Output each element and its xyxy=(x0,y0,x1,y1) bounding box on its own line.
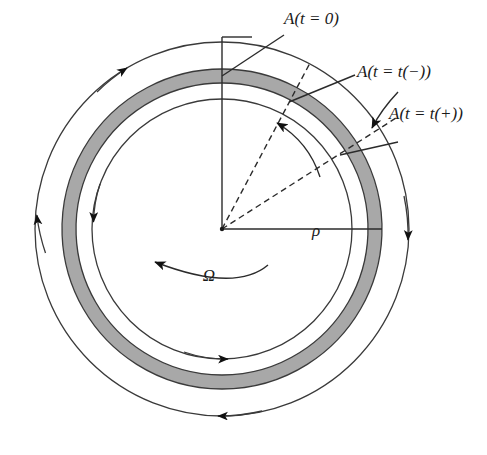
a-t0-leader-line xyxy=(222,35,284,76)
label-rho: ρ xyxy=(311,221,320,240)
annulus-rotation-diagram: A(t = 0) A(t = t(−)) A(t = t(+)) ρ Ω xyxy=(0,0,487,455)
label-a-t-minus: A(t = t(−)) xyxy=(356,62,431,81)
outer-arrow-left-icon xyxy=(37,215,46,253)
sweep-arc-arrow-icon xyxy=(277,123,320,177)
label-omega: Ω xyxy=(203,266,215,285)
label-a-t-plus: A(t = t(+)) xyxy=(388,104,463,123)
figure-root: A(t = 0) A(t = t(−)) A(t = t(+)) ρ Ω xyxy=(0,0,487,455)
label-a-t0: A(t = 0) xyxy=(283,9,339,28)
center-point xyxy=(220,227,224,231)
outer-arrow-topleft-icon xyxy=(97,68,127,92)
